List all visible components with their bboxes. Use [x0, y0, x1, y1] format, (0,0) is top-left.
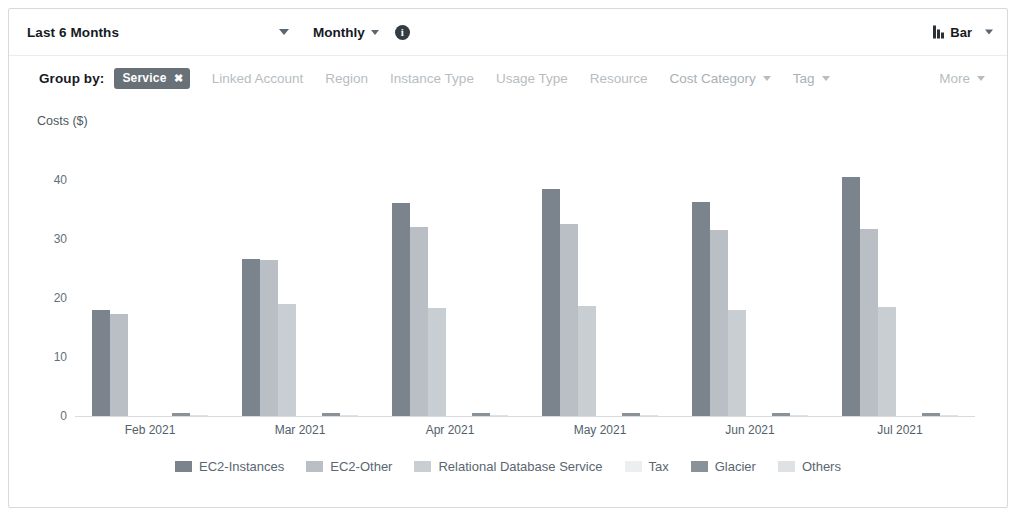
group-by-option-instance-type[interactable]: Instance Type	[390, 71, 474, 86]
legend-swatch	[778, 461, 795, 472]
chart-type-select[interactable]: Bar	[933, 25, 993, 40]
legend-item[interactable]: EC2-Instances	[175, 459, 284, 474]
bar[interactable]	[242, 259, 260, 416]
group-by-option-resource[interactable]: Resource	[590, 71, 648, 86]
legend-item[interactable]: Tax	[625, 459, 669, 474]
bar[interactable]	[472, 413, 490, 416]
bar[interactable]	[92, 310, 110, 416]
bar[interactable]	[790, 415, 808, 416]
chart-legend: EC2-InstancesEC2-OtherRelational Databas…	[9, 459, 1007, 474]
bar[interactable]	[940, 415, 958, 416]
bar[interactable]	[278, 304, 296, 416]
legend-item[interactable]: Others	[778, 459, 841, 474]
controls-bar: Last 6 Months Monthly i Bar	[9, 9, 1007, 56]
bar-group	[375, 156, 525, 416]
legend-label: Relational Database Service	[438, 459, 602, 474]
x-axis-label: Jun 2021	[675, 423, 825, 437]
group-by-more-label: More	[939, 71, 970, 86]
bar-group	[675, 156, 825, 416]
chevron-down-icon	[763, 76, 771, 81]
bar[interactable]	[622, 413, 640, 416]
granularity-select[interactable]: Monthly	[313, 25, 379, 40]
legend-label: Tax	[649, 459, 669, 474]
group-by-option-cost-category-label: Cost Category	[669, 71, 755, 86]
legend-label: Glacier	[715, 459, 756, 474]
bar[interactable]	[110, 314, 128, 416]
legend-swatch	[414, 461, 431, 472]
y-axis-tick: 20	[54, 291, 67, 305]
group-by-option-region[interactable]: Region	[325, 71, 368, 86]
group-by-label: Group by:	[39, 71, 104, 86]
x-axis-label: Feb 2021	[75, 423, 225, 437]
bar-group	[825, 156, 975, 416]
bar[interactable]	[560, 224, 578, 416]
group-by-option-linked-account[interactable]: Linked Account	[212, 71, 304, 86]
legend-label: Others	[802, 459, 841, 474]
chart-type-label: Bar	[950, 25, 972, 40]
bar[interactable]	[860, 229, 878, 416]
bar[interactable]	[878, 307, 896, 416]
bar[interactable]	[172, 413, 190, 416]
bar[interactable]	[410, 227, 428, 416]
y-axis-ticks: 010203040	[9, 156, 67, 416]
legend-item[interactable]: Relational Database Service	[414, 459, 602, 474]
legend-swatch	[306, 461, 323, 472]
y-axis-title: Costs ($)	[37, 114, 88, 128]
bar[interactable]	[190, 415, 208, 416]
x-axis-label: Mar 2021	[225, 423, 375, 437]
bar[interactable]	[392, 203, 410, 416]
bar[interactable]	[728, 310, 746, 416]
bar[interactable]	[692, 202, 710, 416]
bar[interactable]	[640, 415, 658, 416]
group-by-option-tag[interactable]: Tag	[793, 71, 830, 86]
bar-group	[525, 156, 675, 416]
chevron-down-icon	[977, 76, 985, 81]
bar-chart-icon	[933, 26, 945, 39]
x-axis-labels: Feb 2021Mar 2021Apr 2021May 2021Jun 2021…	[75, 423, 975, 437]
bar[interactable]	[922, 413, 940, 416]
y-axis-tick: 40	[54, 173, 67, 187]
bar[interactable]	[542, 189, 560, 417]
bar[interactable]	[428, 308, 446, 416]
cost-explorer-panel: Last 6 Months Monthly i Bar Group by: Se…	[8, 8, 1008, 508]
bar-group	[225, 156, 375, 416]
y-axis-tick: 10	[54, 350, 67, 364]
legend-swatch	[175, 461, 192, 472]
bar[interactable]	[578, 306, 596, 416]
legend-swatch	[625, 461, 642, 472]
legend-item[interactable]: EC2-Other	[306, 459, 392, 474]
bar[interactable]	[490, 415, 508, 416]
x-axis-line	[75, 416, 975, 417]
chevron-down-icon	[279, 29, 289, 35]
bar[interactable]	[260, 260, 278, 416]
group-by-more-button[interactable]: More	[939, 71, 985, 86]
y-axis-tick: 0	[60, 409, 67, 423]
info-icon[interactable]: i	[395, 25, 410, 40]
x-axis-label: Jul 2021	[825, 423, 975, 437]
bar[interactable]	[710, 230, 728, 416]
granularity-label: Monthly	[313, 25, 365, 40]
group-by-option-cost-category[interactable]: Cost Category	[669, 71, 770, 86]
bar[interactable]	[772, 413, 790, 416]
x-axis-label: Apr 2021	[375, 423, 525, 437]
date-range-select[interactable]: Last 6 Months	[27, 25, 289, 40]
y-axis-tick: 30	[54, 232, 67, 246]
x-axis-label: May 2021	[525, 423, 675, 437]
chevron-down-icon	[822, 76, 830, 81]
bar[interactable]	[322, 413, 340, 416]
group-by-option-usage-type[interactable]: Usage Type	[496, 71, 568, 86]
group-by-option-tag-label: Tag	[793, 71, 815, 86]
legend-item[interactable]: Glacier	[691, 459, 756, 474]
bar-group	[75, 156, 225, 416]
bar[interactable]	[842, 177, 860, 416]
bar[interactable]	[340, 415, 358, 416]
legend-label: EC2-Instances	[199, 459, 284, 474]
legend-label: EC2-Other	[330, 459, 392, 474]
group-by-tag-service[interactable]: Service ✖	[114, 68, 189, 89]
group-by-bar: Group by: Service ✖ Linked Account Regio…	[9, 56, 1007, 101]
close-icon[interactable]: ✖	[174, 73, 183, 84]
group-by-tag-label: Service	[122, 71, 166, 85]
date-range-label: Last 6 Months	[27, 25, 273, 40]
chevron-down-icon	[371, 30, 379, 35]
cost-chart: Costs ($) 010203040 Feb 2021Mar 2021Apr …	[9, 101, 1007, 507]
